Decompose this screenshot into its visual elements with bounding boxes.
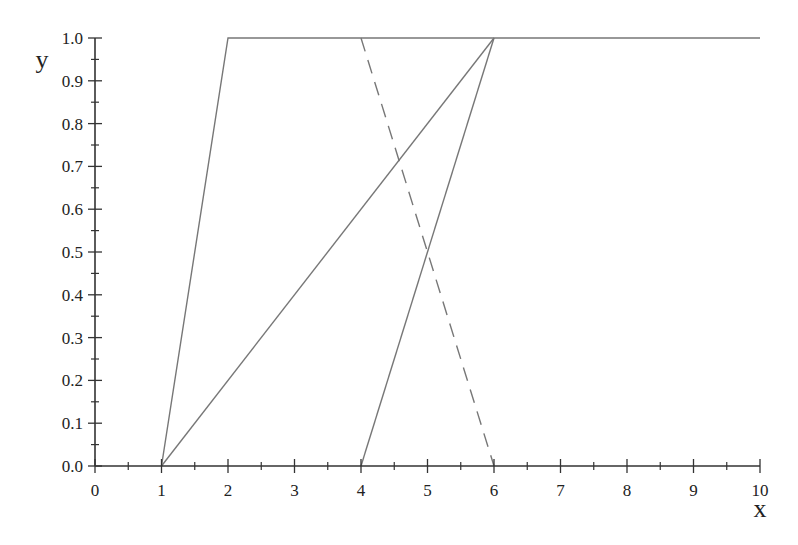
x-axis-ticks: 012345678910 [91, 459, 769, 500]
chart: 012345678910 0.00.10.20.30.40.50.60.70.8… [0, 0, 798, 545]
x-tick-label: 3 [290, 481, 299, 500]
x-tick-label: 9 [689, 481, 698, 500]
y-tick-label: 0.1 [62, 414, 83, 433]
series-line-b [162, 38, 495, 466]
y-tick-label: 1.0 [62, 29, 83, 48]
x-axis-label: x [754, 494, 767, 523]
y-tick-label: 0.0 [62, 457, 83, 476]
y-tick-label: 0.2 [62, 371, 83, 390]
y-tick-label: 0.9 [62, 72, 83, 91]
y-tick-label: 0.5 [62, 243, 83, 262]
x-tick-label: 4 [357, 481, 366, 500]
x-tick-label: 2 [224, 481, 233, 500]
x-tick-label: 1 [157, 481, 166, 500]
y-tick-label: 0.6 [62, 200, 83, 219]
series-layer [162, 38, 761, 466]
y-tick-label: 0.7 [62, 157, 84, 176]
series-line-a [162, 38, 761, 466]
y-tick-label: 0.8 [62, 115, 83, 134]
y-tick-label: 0.3 [62, 329, 83, 348]
y-axis-label: y [36, 45, 49, 74]
y-tick-label: 0.4 [62, 286, 84, 305]
x-tick-label: 7 [556, 481, 565, 500]
x-tick-label: 0 [91, 481, 100, 500]
x-tick-label: 5 [423, 481, 432, 500]
x-tick-label: 6 [490, 481, 499, 500]
y-axis-ticks: 0.00.10.20.30.40.50.60.70.80.91.0 [62, 29, 102, 476]
x-tick-label: 8 [623, 481, 632, 500]
